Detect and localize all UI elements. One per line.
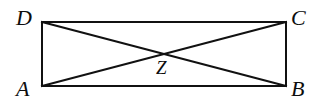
vertex-label-a: A (16, 78, 29, 100)
vertex-label-b: B (291, 78, 304, 100)
vertex-label-z: Z (156, 58, 167, 77)
figure-background (0, 0, 331, 105)
vertex-label-d: D (16, 7, 32, 29)
rectangle-with-diagonals-drawing (0, 0, 331, 105)
geometry-figure: D C A B Z (0, 0, 331, 105)
vertex-label-c: C (291, 7, 306, 29)
